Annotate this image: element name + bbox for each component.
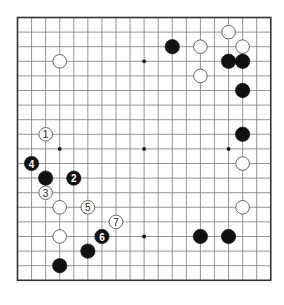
white-stone-move-5: 5 — [81, 201, 95, 215]
black-stone — [235, 83, 249, 97]
black-stone-icon — [221, 229, 235, 243]
black-stone — [221, 229, 235, 243]
star-point-icon — [142, 235, 146, 239]
white-stone-icon — [194, 40, 208, 54]
white-stone-icon — [53, 230, 67, 244]
white-stone-icon — [222, 25, 236, 39]
black-stone — [53, 259, 67, 273]
white-stone-icon — [236, 201, 250, 215]
white-stone-move-1: 1 — [39, 128, 53, 142]
black-stone-icon — [53, 259, 67, 273]
star-point-icon — [58, 147, 62, 151]
white-stone — [53, 55, 67, 69]
black-stone-icon — [221, 54, 235, 68]
black-stone — [221, 54, 235, 68]
move-number: 3 — [43, 188, 49, 199]
black-stone — [81, 244, 95, 258]
black-stone-move-6: 6 — [95, 229, 109, 243]
black-stone-move-4: 4 — [24, 156, 38, 170]
black-stone-icon — [235, 54, 249, 68]
go-board-diagram: 1234567 — [0, 0, 284, 305]
white-stone-icon — [236, 40, 250, 54]
black-stone — [165, 40, 179, 54]
move-number: 4 — [29, 159, 35, 170]
white-stone-icon — [236, 157, 250, 171]
star-point-icon — [227, 147, 231, 151]
white-stone-move-3: 3 — [39, 186, 53, 200]
white-stone-icon — [53, 55, 67, 69]
white-stone — [194, 40, 208, 54]
black-stone-icon — [165, 40, 179, 54]
black-stone — [235, 54, 249, 68]
white-stone-icon — [53, 201, 67, 215]
white-stone — [53, 230, 67, 244]
move-number: 1 — [43, 129, 49, 140]
star-point-icon — [142, 59, 146, 63]
go-board: 1234567 — [0, 0, 284, 305]
white-stone — [236, 40, 250, 54]
white-stone — [222, 25, 236, 39]
star-point-icon — [142, 147, 146, 151]
black-stone-icon — [193, 229, 207, 243]
white-stone-icon — [194, 69, 208, 83]
black-stone-icon — [38, 171, 52, 185]
black-stone-icon — [235, 127, 249, 141]
white-stone — [236, 157, 250, 171]
move-number: 6 — [99, 232, 105, 243]
black-stone — [235, 127, 249, 141]
move-number: 7 — [113, 217, 119, 228]
move-number: 5 — [85, 202, 91, 213]
black-stone-icon — [235, 83, 249, 97]
black-stone-icon — [81, 244, 95, 258]
move-number: 2 — [71, 173, 77, 184]
white-stone — [236, 201, 250, 215]
white-stone-move-7: 7 — [109, 215, 123, 229]
black-stone — [38, 171, 52, 185]
white-stone — [53, 201, 67, 215]
black-stone — [193, 229, 207, 243]
white-stone — [194, 69, 208, 83]
black-stone-move-2: 2 — [67, 171, 81, 185]
